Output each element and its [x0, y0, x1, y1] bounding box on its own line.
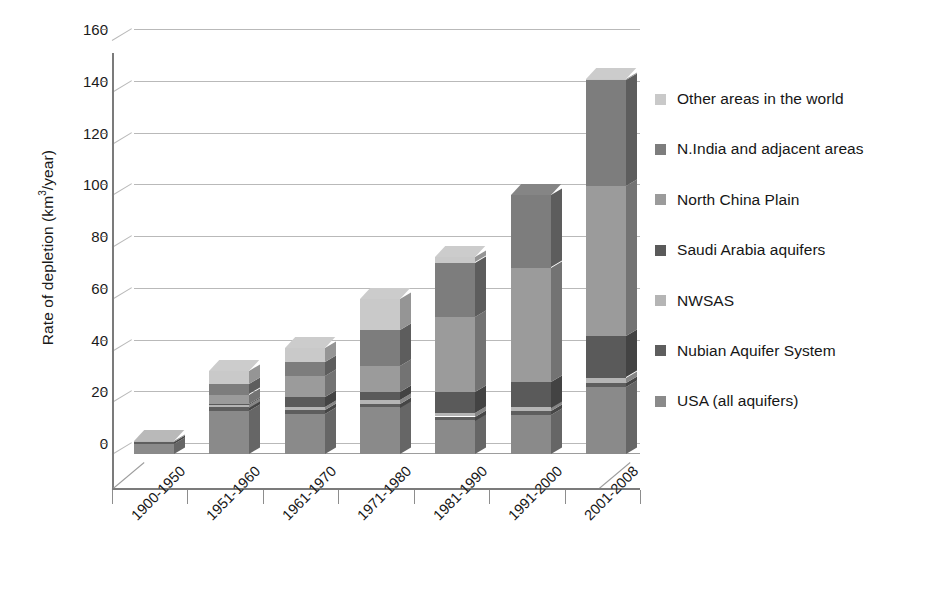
legend-item-label: North China Plain	[677, 191, 799, 209]
legend-item[interactable]: NWSAS	[655, 290, 923, 312]
legend-swatch-icon	[655, 94, 666, 105]
legend-swatch-icon	[655, 295, 666, 306]
legend-item[interactable]: Nubian Aquifer System	[655, 340, 923, 362]
x-tick-label: 1981-1990	[430, 463, 490, 523]
x-tick-label: 1951-1960	[203, 463, 263, 523]
legend-item[interactable]: Saudi Arabia aquifers	[655, 239, 923, 261]
legend-swatch-icon	[655, 144, 666, 155]
x-tick-label: 2001-2008	[581, 463, 641, 523]
legend-item-label: N.India and adjacent areas	[677, 140, 864, 158]
legend-swatch-icon	[655, 245, 666, 256]
legend-item[interactable]: Other areas in the world	[655, 88, 923, 110]
x-tick-label: 1991-2000	[505, 463, 565, 523]
x-tick-label: 1961-1970	[279, 463, 339, 523]
legend-item[interactable]: N.India and adjacent areas	[655, 138, 923, 160]
legend-item-label: Nubian Aquifer System	[677, 342, 836, 360]
legend-swatch-icon	[655, 396, 666, 407]
legend-item[interactable]: North China Plain	[655, 189, 923, 211]
legend-swatch-icon	[655, 194, 666, 205]
legend-item-label: Saudi Arabia aquifers	[677, 241, 825, 259]
chart-legend: Other areas in the worldN.India and adja…	[655, 88, 923, 441]
chart-container: Rate of depletion (km3/year) 16014012010…	[0, 0, 925, 598]
legend-swatch-icon	[655, 345, 666, 356]
legend-item-label: USA (all aquifers)	[677, 392, 799, 410]
x-tick-label: 1900-1950	[128, 463, 188, 523]
legend-item[interactable]: USA (all aquifers)	[655, 390, 923, 412]
legend-item-label: NWSAS	[677, 292, 734, 310]
legend-item-label: Other areas in the world	[677, 90, 844, 108]
x-tick-label: 1971-1980	[354, 463, 414, 523]
